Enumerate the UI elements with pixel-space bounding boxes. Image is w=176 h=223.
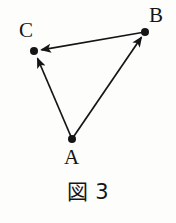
vertex-dot-a — [68, 135, 76, 143]
vertex-dot-b — [141, 28, 149, 36]
vertex-dot-group — [30, 28, 149, 143]
vertex-dot-c — [30, 47, 38, 55]
figure-container: C B A 図3 — [0, 0, 176, 223]
arrow-b-to-c — [42, 32, 146, 50]
figure-caption-kanji: 図 — [67, 180, 88, 204]
figure-caption-number: 3 — [95, 180, 108, 204]
figure-caption: 図3 — [0, 182, 176, 203]
arrow-a-to-c — [38, 59, 72, 140]
vertex-label-c: C — [19, 20, 33, 41]
vertex-label-b: B — [149, 5, 163, 26]
arrow-a-to-b — [72, 37, 141, 139]
arrow-group — [38, 32, 145, 139]
vertex-label-a: A — [64, 147, 79, 168]
